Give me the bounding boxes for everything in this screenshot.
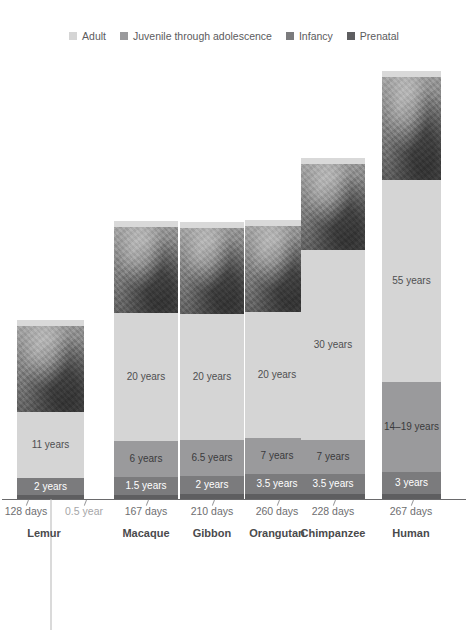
category-axis-labels: 128 days0.5 yearLemur167 daysMacaque210 … xyxy=(0,500,468,561)
segment-adult-lemur[interactable]: 11 years xyxy=(17,412,84,478)
legend-label-adult: Adult xyxy=(82,31,106,42)
segment-prenatal-macaque[interactable] xyxy=(114,495,178,499)
gestation-label-chimpanzee: 228 days xyxy=(312,505,355,517)
legend-label-infancy: Infancy xyxy=(299,31,333,42)
bar-column-gibbon[interactable]: 20 years6.5 years2 years xyxy=(180,222,244,499)
segment-infancy-orangutan[interactable]: 3.5 years xyxy=(245,474,309,494)
segment-juvenile-macaque[interactable]: 6 years xyxy=(114,441,178,477)
gestation-label-macaque: 167 days xyxy=(125,505,168,517)
legend-swatch-prenatal xyxy=(347,32,355,40)
gestation-label-orangutan: 260 days xyxy=(256,505,299,517)
segment-juvenile-human[interactable]: 14–19 years xyxy=(382,382,441,472)
category-label-macaque[interactable]: Macaque xyxy=(122,527,169,539)
segment-prenatal-chimpanzee[interactable] xyxy=(301,494,365,499)
chimpanzee-photo xyxy=(301,164,365,250)
segment-prenatal-gibbon[interactable] xyxy=(180,494,244,499)
chart-plot-area: 11 years2 years20 years6 years1.5 years2… xyxy=(0,48,468,500)
bar-column-human[interactable]: 55 years14–19 years3 years xyxy=(382,71,441,499)
gestation-label-lemur: 128 days xyxy=(5,505,48,517)
segment-infancy-chimpanzee[interactable]: 3.5 years xyxy=(301,474,365,494)
orangutan-photo xyxy=(245,226,309,312)
segment-prenatal-human[interactable] xyxy=(382,494,441,499)
legend-item-infancy[interactable]: Infancy xyxy=(286,31,333,42)
legend-item-juvenile[interactable]: Juvenile through adolescence xyxy=(120,31,272,42)
gestation-label-human: 267 days xyxy=(390,505,433,517)
segment-infancy-gibbon[interactable]: 2 years xyxy=(180,476,244,494)
bar-column-macaque[interactable]: 20 years6 years1.5 years xyxy=(114,221,178,499)
extra-label-lemur: 0.5 year xyxy=(65,505,103,517)
category-label-lemur[interactable]: Lemur xyxy=(27,527,61,539)
segment-infancy-human[interactable]: 3 years xyxy=(382,472,441,494)
segment-adult-macaque[interactable]: 20 years xyxy=(114,313,178,441)
segment-prenatal-lemur[interactable] xyxy=(17,495,84,499)
segment-prenatal-orangutan[interactable] xyxy=(245,494,309,499)
gibbon-photo xyxy=(180,228,244,314)
macaque-photo xyxy=(114,227,178,313)
legend-swatch-juvenile xyxy=(120,32,128,40)
legend-item-adult[interactable]: Adult xyxy=(69,31,106,42)
human-photo xyxy=(382,77,441,180)
legend-item-prenatal[interactable]: Prenatal xyxy=(347,31,399,42)
gestation-label-gibbon: 210 days xyxy=(191,505,234,517)
category-label-chimpanzee[interactable]: Chimpanzee xyxy=(301,527,366,539)
category-label-gibbon[interactable]: Gibbon xyxy=(193,527,232,539)
category-label-human[interactable]: Human xyxy=(392,527,429,539)
legend-swatch-infancy xyxy=(286,32,294,40)
segment-adult-chimpanzee[interactable]: 30 years xyxy=(301,250,365,440)
segment-infancy-lemur[interactable]: 2 years xyxy=(17,478,84,495)
legend-label-prenatal: Prenatal xyxy=(360,31,399,42)
legend-swatch-adult xyxy=(69,32,77,40)
segment-juvenile-gibbon[interactable]: 6.5 years xyxy=(180,440,244,476)
segment-juvenile-chimpanzee[interactable]: 7 years xyxy=(301,440,365,474)
segment-adult-human[interactable]: 55 years xyxy=(382,180,441,382)
ring-tailed-lemur-photo xyxy=(17,326,84,412)
category-label-orangutan[interactable]: Orangutan xyxy=(249,527,305,539)
bar-column-chimpanzee[interactable]: 30 years7 years3.5 years xyxy=(301,158,365,499)
chart-legend: AdultJuvenile through adolescenceInfancy… xyxy=(0,27,468,45)
segment-adult-orangutan[interactable]: 20 years xyxy=(245,312,309,438)
segment-juvenile-orangutan[interactable]: 7 years xyxy=(245,438,309,474)
bar-column-lemur[interactable]: 11 years2 years xyxy=(17,320,84,499)
bar-column-orangutan[interactable]: 20 years7 years3.5 years xyxy=(245,220,309,499)
legend-label-juvenile: Juvenile through adolescence xyxy=(133,31,272,42)
segment-infancy-macaque[interactable]: 1.5 years xyxy=(114,477,178,495)
segment-adult-gibbon[interactable]: 20 years xyxy=(180,314,244,440)
